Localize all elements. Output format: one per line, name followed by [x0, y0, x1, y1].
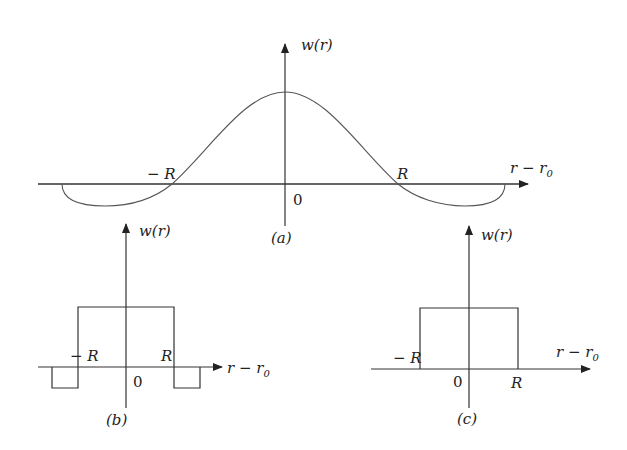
panel-a: w(r) − R R 0 r − r0 (a) [38, 36, 553, 247]
panel-b-origin-label: 0 [133, 373, 143, 391]
panel-c-y-label: w(r) [481, 226, 513, 244]
panel-a-R-label: R [396, 165, 408, 183]
panel-a-x-label: r − r0 [510, 159, 553, 179]
panel-a-mexican-hat-curve [62, 92, 505, 206]
panel-c-neg-R-label: − R [393, 349, 422, 367]
panel-b-neg-R-label: − R [70, 347, 99, 365]
panel-b: w(r) − R R 0 r − r0 (b) [38, 222, 270, 429]
panel-a-neg-R-label: − R [147, 165, 176, 183]
panel-a-y-label: w(r) [301, 36, 333, 54]
panel-b-x-label: r − r0 [227, 359, 270, 379]
panel-c-caption: (c) [457, 410, 477, 428]
figure-canvas: w(r) − R R 0 r − r0 (a) w(r) − R R 0 r −… [0, 0, 627, 450]
panel-b-y-label: w(r) [139, 222, 171, 240]
panel-c-origin-label: 0 [453, 373, 463, 391]
panel-c: w(r) − R R 0 r − r0 (c) [371, 226, 599, 428]
panel-c-x-label: r − r0 [556, 343, 599, 363]
panel-b-R-label: R [160, 347, 172, 365]
panel-a-origin-label: 0 [293, 191, 303, 209]
panel-c-R-label: R [510, 374, 522, 392]
panel-a-caption: (a) [271, 229, 292, 247]
panel-b-caption: (b) [106, 411, 127, 429]
